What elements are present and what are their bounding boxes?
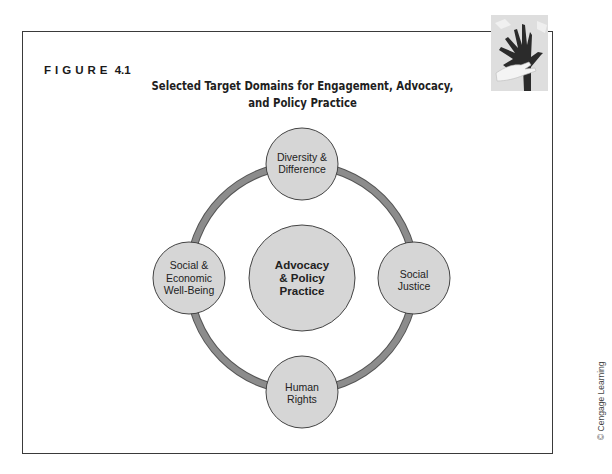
node-left-line-2: Economic xyxy=(166,272,212,285)
node-right-line-1: Social xyxy=(400,268,429,281)
copyright-credit: © Cengage Learning xyxy=(596,361,606,440)
center-line-3: Practice xyxy=(280,285,325,298)
node-bottom-line-2: Rights xyxy=(287,393,317,406)
node-diversity-difference: Diversity & Difference xyxy=(262,145,342,181)
center-node-label: Advocacy & Policy Practice xyxy=(252,248,352,308)
node-top-line-2: Difference xyxy=(278,163,326,176)
node-left-line-3: Well-Being xyxy=(164,284,215,297)
node-bottom-line-1: Human xyxy=(285,381,319,394)
center-line-1: Advocacy xyxy=(275,259,329,272)
node-social-justice: Social Justice xyxy=(374,264,454,296)
node-social-economic-well-being: Social & Economic Well-Being xyxy=(149,258,229,298)
node-right-line-2: Justice xyxy=(398,280,431,293)
node-top-line-1: Diversity & xyxy=(277,151,327,164)
node-human-rights: Human Rights xyxy=(262,377,342,409)
center-line-2: & Policy xyxy=(279,272,324,285)
node-left-line-1: Social & xyxy=(170,259,209,272)
